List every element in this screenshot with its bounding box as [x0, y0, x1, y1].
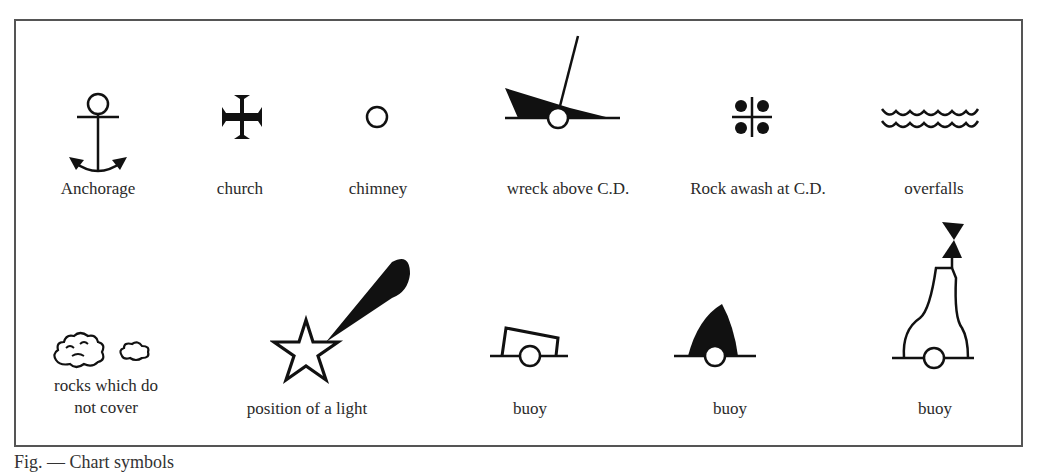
- conical-buoy-icon: [672, 298, 758, 370]
- label-light: position of a light: [247, 398, 367, 420]
- wave-lines-icon: [880, 103, 980, 133]
- label-rocks-line1: rocks which do: [54, 375, 158, 397]
- rock-awash-icon: [730, 95, 774, 139]
- small-circle-icon: [364, 104, 390, 130]
- anchor-icon: [62, 90, 134, 178]
- pillar-buoy-topmark-icon: [890, 218, 980, 370]
- can-buoy-icon: [488, 318, 570, 370]
- label-wreck: wreck above C.D.: [507, 178, 630, 200]
- label-overfalls: overfalls: [904, 178, 963, 200]
- label-church: church: [217, 178, 263, 200]
- label-buoy-3: buoy: [918, 398, 952, 420]
- label-rock-awash: Rock awash at C.D.: [690, 178, 826, 200]
- figure-caption: Fig. — Chart symbols: [14, 452, 174, 473]
- rocks-outline-icon: [50, 330, 155, 370]
- cross-icon: [218, 93, 266, 141]
- label-chimney: chimney: [349, 178, 408, 200]
- label-rocks-line2: not cover: [74, 397, 138, 419]
- star-flare-icon: [270, 250, 415, 390]
- label-anchorage: Anchorage: [61, 178, 136, 200]
- label-buoy-1: buoy: [513, 398, 547, 420]
- label-buoy-2: buoy: [713, 398, 747, 420]
- wreck-icon: [500, 32, 630, 132]
